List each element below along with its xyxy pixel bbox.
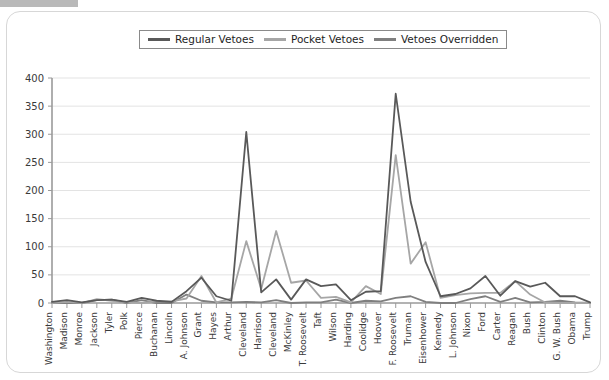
x-axis-tick-label: Truman <box>403 312 413 347</box>
x-axis-tick-label: Reagan <box>507 312 517 346</box>
series-line-pocket-vetoes <box>52 155 590 303</box>
y-axis-tick-label: 200 <box>25 185 44 196</box>
y-axis-tick-label: 250 <box>25 157 44 168</box>
x-axis-tick-label: G. W. Bush <box>552 312 562 361</box>
y-axis-tick-label: 50 <box>31 269 44 280</box>
y-axis-tick-label: 300 <box>25 129 44 140</box>
x-axis-tick-label: McKinley <box>283 311 293 352</box>
x-axis-tick-label: Madison <box>59 312 69 349</box>
x-axis-tick-label: Bush <box>522 312 532 334</box>
y-axis-tick-label: 350 <box>25 101 44 112</box>
x-axis-tick-label: Harding <box>343 312 353 347</box>
x-axis-tick-label: Kennedy <box>433 311 443 351</box>
x-axis-tick-label: T. Roosevelt <box>298 312 308 368</box>
chart-screenshot: Regular Vetoes Pocket Vetoes Vetoes Over… <box>0 0 609 380</box>
x-axis-tick-label: Grant <box>193 312 203 338</box>
x-axis-tick-label: Harrison <box>253 312 263 350</box>
x-axis-tick-label: Cleveland <box>268 312 278 357</box>
y-axis-tick-label: 100 <box>25 241 44 252</box>
x-axis-tick-label: Eisenhower <box>418 312 428 364</box>
series-line-regular-vetoes <box>52 94 590 303</box>
x-axis-tick-label: Trump <box>582 312 592 341</box>
x-axis-tick-label: Ford <box>477 312 487 332</box>
x-axis-tick-label: Washington <box>44 312 54 365</box>
x-axis-tick-label: Jackson <box>89 312 99 347</box>
x-axis-tick-label: Tyler <box>104 312 114 334</box>
x-axis-tick-label: Buchanan <box>149 312 159 357</box>
x-axis-tick-label: F. Roosevelt <box>388 312 398 366</box>
x-axis-tick-label: Coolidge <box>358 312 368 352</box>
x-axis-tick-label: Arthur <box>223 312 233 341</box>
x-axis-tick-label: Hayes <box>208 312 218 340</box>
y-axis-tick-label: 0 <box>38 298 44 309</box>
x-axis-tick-label: Cleveland <box>238 312 248 357</box>
x-axis-tick-label: Polk <box>119 311 129 330</box>
x-axis-tick-label: Lincoln <box>164 312 174 344</box>
y-axis-tick-label: 150 <box>25 213 44 224</box>
x-axis-tick-label: Monroe <box>74 312 84 346</box>
x-axis-tick-label: L. Johnson <box>448 312 458 358</box>
x-axis-tick-label: Nixon <box>462 312 472 338</box>
line-chart-svg: 050100150200250300350400WashingtonMadiso… <box>0 0 609 380</box>
x-axis-tick-label: Carter <box>492 312 502 341</box>
x-axis-tick-label: Pierce <box>134 312 144 340</box>
x-axis-tick-label: Hoover <box>373 312 383 345</box>
y-axis-tick-label: 400 <box>25 73 44 84</box>
plot-area: 050100150200250300350400WashingtonMadiso… <box>0 0 609 380</box>
x-axis-tick-label: Wilson <box>328 312 338 342</box>
x-axis-tick-label: Obama <box>567 312 577 345</box>
x-axis-tick-label: Taft <box>313 312 323 330</box>
x-axis-tick-label: Clinton <box>537 312 547 344</box>
x-axis-tick-label: A. Johnson <box>179 312 189 359</box>
